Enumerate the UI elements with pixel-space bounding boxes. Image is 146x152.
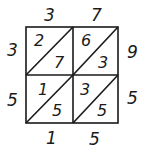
right-result-digit-1: 9 — [127, 44, 138, 61]
cell-r2c1-ones: 5 — [52, 103, 62, 119]
top-digit-1: 3 — [44, 7, 55, 24]
cell-r2c2-ones: 5 — [97, 103, 107, 119]
cell-r1c2-ones: 3 — [98, 55, 108, 71]
cell-r2c2-tens: 3 — [80, 82, 90, 98]
bottom-result-digit-1: 1 — [46, 130, 57, 147]
cell-r1c2-tens: 6 — [81, 33, 91, 49]
bottom-result-digit-2: 5 — [89, 131, 100, 148]
right-result-digit-2: 5 — [127, 90, 138, 107]
cell-r2c1-tens: 1 — [38, 82, 48, 98]
cell-r1c1-ones: 7 — [54, 55, 64, 71]
cell-r1c1-tens: 2 — [34, 33, 44, 49]
top-digit-2: 7 — [91, 7, 102, 24]
left-digit-2: 5 — [7, 92, 18, 109]
lattice-grid — [0, 0, 146, 152]
left-digit-1: 3 — [7, 42, 18, 59]
